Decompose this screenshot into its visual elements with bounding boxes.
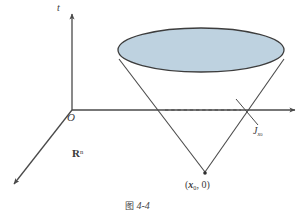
t-axis-label: t <box>57 3 60 13</box>
cone-edge-left <box>119 59 205 172</box>
cone-apex-point <box>203 171 207 175</box>
caption-cjk-char: 图 <box>125 201 134 211</box>
cone-body <box>121 58 285 174</box>
figure-container: t O Rn Jx0 (x0, 0) 图 4-4 <box>0 0 302 214</box>
origin-label: O <box>67 112 75 123</box>
figure-drawing <box>0 0 302 214</box>
diagonal-axis <box>14 110 72 184</box>
space-label-exponent: n <box>80 148 83 155</box>
cone-edge-right <box>205 59 284 172</box>
apex-point-label: (x0, 0) <box>185 180 210 191</box>
cone-surface-label: Jx0 <box>253 126 263 138</box>
leader-line-j <box>236 99 258 125</box>
space-label-rn: Rn <box>72 148 83 159</box>
cone-surface-label-sub-num: 0 <box>260 132 262 137</box>
caption-number: 4-4 <box>137 200 150 211</box>
figure-caption: 图 4-4 <box>125 201 150 211</box>
space-label-base: R <box>72 147 80 159</box>
apex-rest: , 0) <box>196 179 209 190</box>
cone-top-ellipse <box>118 28 284 72</box>
